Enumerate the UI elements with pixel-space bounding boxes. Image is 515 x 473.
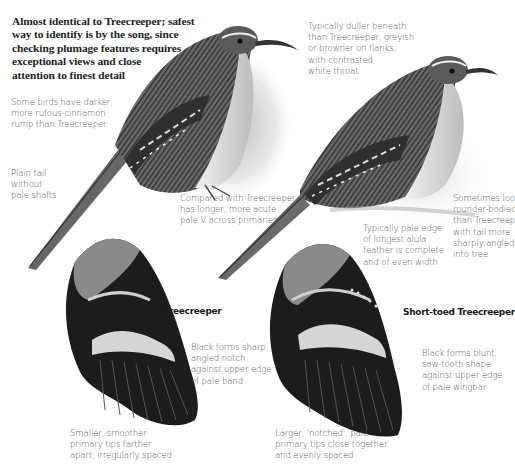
intro-line: Almost identical to Treecreeper; safest [12,15,195,28]
annotation-line: more rufous-cinnamon [11,108,113,119]
annotation-line: rump than Treecreeper [11,119,113,130]
annotation-line: Some birds have darker, [11,97,113,108]
annotation-line: Typically duller beneath [308,21,414,32]
annotation-line: and evenly spaced [275,450,387,461]
annotation-line: into tree [453,249,515,260]
annotation-line: Sometimes looks [453,193,515,204]
annotation-line: Compared with Treecreeper [180,193,295,204]
annotation-line: primary tips farther [70,439,172,450]
annotation-body-shape: Sometimes looks rounder-bodied than Tree… [453,193,515,260]
annotation-line: Plain tail [11,168,56,179]
annotation-line: Larger, 'notched', pale [275,428,387,439]
annotation-line: Typically pale edge [363,223,444,234]
short-toed-treecreeper-wing-illustration [270,244,402,437]
annotation-stc-tips: Larger, 'notched', pale primary tips clo… [275,428,387,462]
intro-line: attention to finest detail [12,69,195,82]
field-guide-page: Almost identical to Treecreeper; safest … [0,0,515,473]
annotation-line: saw-tooth shape [422,359,503,370]
annotation-line: pale shafts [11,190,56,201]
intro-line: exceptional views and close [12,55,195,68]
annotation-line: with contrasted [308,55,414,66]
annotation-line: has longer, more acute [180,204,295,215]
annotation-line: with tail more [453,227,515,238]
annotation-line: primary tips close together [275,439,387,450]
annotation-line: white throat [308,66,414,77]
annotation-line: rounder-bodied [453,204,515,215]
annotation-line: without [11,179,56,190]
annotation-tc-notch: Black forms sharp, angled notch against … [191,342,272,387]
wing-label-short-toed-treecreeper: Short-toed Treecreeper [403,307,515,317]
annotation-primaries-v: Compared with Treecreeper has longer, mo… [180,193,295,227]
annotation-line: sharply angled [453,238,515,249]
annotation-line: of pale wingbar [422,382,503,393]
annotation-line: against upper edge [191,364,272,375]
intro-line: way to identify is by the song, since [12,28,195,41]
intro-line: checking plumage features requires [12,42,195,55]
treecreeper-wing-illustration [66,239,198,426]
wing-label-treecreeper: Treecreeper [164,306,221,316]
annotation-alula: Typically pale edge of longest alula fea… [363,223,444,268]
annotation-line: or browner on flanks, [308,43,414,54]
annotation-line: of pale band [191,376,272,387]
annotation-tail: Plain tail without pale shafts [11,168,56,202]
annotation-stc-notch: Black forms blunt, saw-tooth shape again… [422,348,503,393]
annotation-line: and of even width [363,257,444,268]
annotation-line: feather is complete [363,245,444,256]
annotation-line: pale V across primaries [180,215,295,226]
annotation-underparts: Typically duller beneath than Treecreepe… [308,21,414,77]
annotation-line: than Treecreeper, greyish [308,32,414,43]
annotation-line: Smaller, smoother [70,428,172,439]
annotation-line: apart, irregularly spaced [70,450,172,461]
annotation-tc-tips: Smaller, smoother primary tips farther a… [70,428,172,462]
annotation-line: of longest alula [363,234,444,245]
intro-text: Almost identical to Treecreeper; safest … [12,15,195,82]
annotation-line: than Treecreeper, [453,215,515,226]
annotation-line: against upper edge [422,370,503,381]
annotation-line: angled notch [191,353,272,364]
annotation-rump: Some birds have darker, more rufous-cinn… [11,97,113,131]
annotation-line: Black forms blunt, [422,348,503,359]
annotation-line: Black forms sharp, [191,342,272,353]
